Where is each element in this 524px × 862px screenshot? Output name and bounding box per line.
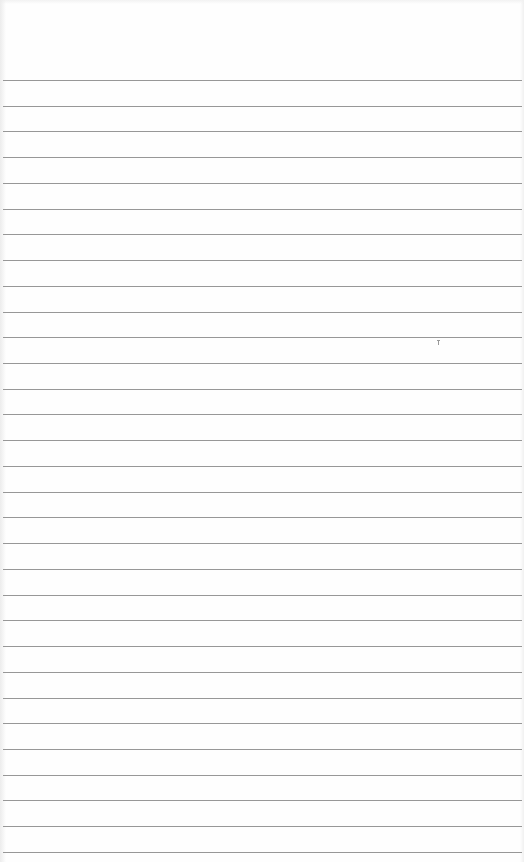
ruled-line [3,749,522,750]
ruled-line [3,800,522,801]
ruled-line [3,440,522,441]
ruled-line [3,389,522,390]
ruled-line [3,569,522,570]
left-edge-shading [0,0,6,862]
paper-speck-mark [437,340,440,345]
ruled-line [3,492,522,493]
ruled-line [3,646,522,647]
ruled-line [3,414,522,415]
ruled-line [3,131,522,132]
ruled-line [3,183,522,184]
ruled-line [3,620,522,621]
ruled-line [3,260,522,261]
ruled-line [3,517,522,518]
right-edge-shading [520,0,524,862]
ruled-line [3,595,522,596]
ruled-line [3,775,522,776]
ruled-line [3,826,522,827]
top-edge-shading [0,0,524,4]
ruled-line [3,723,522,724]
ruled-line [3,80,522,81]
ruled-line [3,672,522,673]
ruled-line [3,543,522,544]
ruled-line [3,466,522,467]
ruled-line [3,106,522,107]
ruled-line [3,286,522,287]
ruled-line [3,157,522,158]
ruled-line [3,312,522,313]
ruled-line [3,363,522,364]
ruled-line [3,698,522,699]
lined-paper-sheet [0,0,524,862]
ruled-line [3,852,522,853]
ruled-line [3,337,522,338]
ruled-line [3,234,522,235]
ruled-line [3,209,522,210]
